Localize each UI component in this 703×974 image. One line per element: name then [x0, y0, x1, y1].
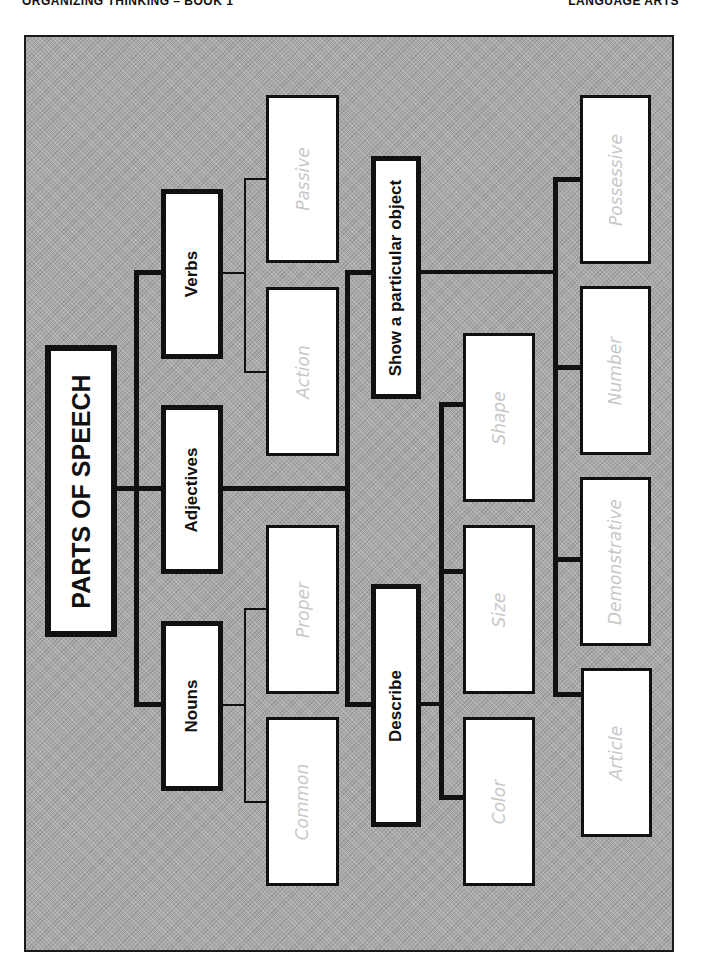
connector-to-color [439, 795, 465, 800]
header-left: ORGANIZING THINKING – BOOK 1 [22, 0, 233, 8]
connector-to-action [244, 371, 268, 373]
connector-adjectives-spine [345, 270, 350, 707]
leaf-number-label: Number [606, 336, 626, 404]
leaf-action-label: Action [292, 345, 312, 399]
leaf-color-label: Color [489, 779, 509, 823]
leaf-article-label: Article [606, 725, 626, 780]
connector-to-passive [244, 178, 268, 180]
leaf-number-box[interactable]: Number [580, 286, 651, 455]
connector-to-common [244, 801, 268, 803]
leaf-proper-box[interactable]: Proper [266, 525, 339, 694]
leaf-shape-label: Shape [489, 391, 509, 444]
connector-to-possessive [553, 177, 581, 182]
leaf-demonstrative-box[interactable]: Demonstrative [580, 477, 651, 646]
leaf-shape-box[interactable]: Shape [463, 333, 535, 502]
leaf-proper-label: Proper [292, 582, 312, 638]
category-adjectives-label: Adjectives [182, 447, 202, 532]
connector-to-show-object [345, 270, 374, 275]
connector-nouns-spine [244, 608, 246, 803]
leaf-common-label: Common [293, 763, 313, 840]
group-show-object-box: Show a particular object [371, 156, 421, 399]
connector-to-shape [439, 402, 465, 407]
group-describe-label: Describe [386, 670, 406, 742]
connector-verbs-out [222, 272, 246, 274]
connector-describe-spine [439, 402, 444, 800]
group-describe-box: Describe [371, 584, 421, 827]
header-right: LANGUAGE ARTS [568, 0, 679, 8]
connector-adjectives-out [222, 486, 350, 491]
connector-to-describe [345, 702, 374, 707]
leaf-color-box[interactable]: Color [463, 717, 535, 886]
root-node-box: PARTS OF SPEECH [45, 345, 117, 637]
connector-to-nouns [134, 702, 164, 707]
root-node-label: PARTS OF SPEECH [67, 374, 96, 608]
leaf-demonstrative-label: Demonstrative [606, 498, 626, 624]
connector-nouns-out [222, 704, 246, 706]
connector-to-demonstrative [553, 557, 581, 562]
category-nouns-box: Nouns [161, 621, 223, 791]
connector-to-proper [244, 608, 268, 610]
category-verbs-label: Verbs [182, 251, 202, 297]
connector-to-article [553, 692, 581, 697]
leaf-passive-label: Passive [292, 147, 312, 211]
leaf-action-box[interactable]: Action [266, 287, 339, 456]
connector-show-object-spine [553, 177, 558, 697]
category-nouns-label: Nouns [182, 680, 202, 733]
connector-to-number [553, 365, 581, 370]
group-show-object-label: Show a particular object [386, 179, 406, 376]
connector-verbs-spine [244, 178, 246, 373]
leaf-possessive-label: Possessive [606, 134, 626, 226]
connector-to-adjectives [134, 486, 164, 491]
leaf-passive-box[interactable]: Passive [266, 95, 339, 263]
connector-to-verbs [134, 270, 164, 275]
leaf-possessive-box[interactable]: Possessive [580, 95, 651, 264]
leaf-article-box[interactable]: Article [581, 668, 652, 837]
category-adjectives-box: Adjectives [161, 405, 223, 574]
leaf-common-box[interactable]: Common [266, 717, 339, 886]
connector-to-size [439, 569, 465, 574]
category-verbs-box: Verbs [161, 189, 223, 359]
connector-show-object-out [420, 270, 558, 274]
leaf-size-label: Size [489, 592, 509, 627]
leaf-size-box[interactable]: Size [463, 525, 535, 694]
